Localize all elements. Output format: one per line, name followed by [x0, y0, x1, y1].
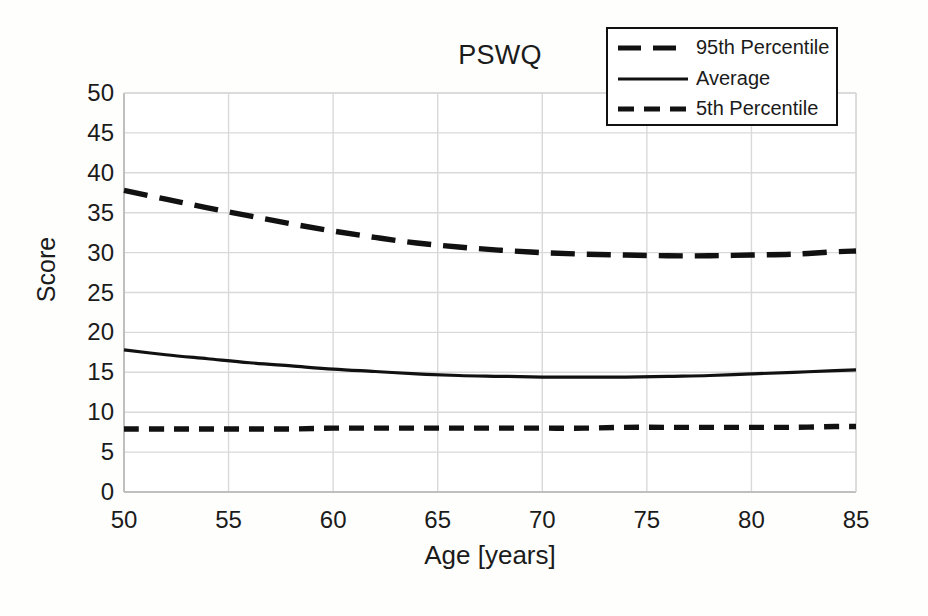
x-tick-label: 85 — [821, 508, 891, 532]
legend-item-95th-percentile[interactable]: 95th Percentile — [608, 32, 840, 63]
x-tick-label: 50 — [89, 508, 159, 532]
legend-swatch-dashed-long-icon — [618, 39, 688, 57]
x-tick-label: 70 — [507, 508, 577, 532]
y-tick-label: 10 — [62, 400, 114, 424]
legend-label: 5th Percentile — [696, 97, 818, 120]
x-tick-label: 65 — [403, 508, 473, 532]
y-tick-label: 35 — [62, 201, 114, 225]
legend-swatch-solid-icon — [618, 70, 688, 88]
x-tick-label: 75 — [612, 508, 682, 532]
y-tick-label: 0 — [62, 480, 114, 504]
legend-swatch-dashed-short-icon — [618, 100, 688, 118]
y-tick-label: 45 — [62, 121, 114, 145]
chart-legend: 95th Percentile Average 5th Percentile — [606, 27, 838, 126]
chart-figure: PSWQ Score Age [years] 05101520253035404… — [0, 0, 928, 616]
y-tick-label: 40 — [62, 161, 114, 185]
y-axis-label: Score — [32, 210, 61, 330]
y-tick-label: 30 — [62, 241, 114, 265]
y-tick-label: 5 — [62, 440, 114, 464]
y-tick-label: 25 — [62, 281, 114, 305]
legend-item-average[interactable]: Average — [608, 63, 840, 94]
y-tick-label: 20 — [62, 320, 114, 344]
x-tick-label: 80 — [716, 508, 786, 532]
legend-item-5th-percentile[interactable]: 5th Percentile — [608, 93, 840, 124]
x-tick-label: 60 — [298, 508, 368, 532]
x-tick-label: 55 — [194, 508, 264, 532]
y-tick-label: 15 — [62, 360, 114, 384]
x-axis-label: Age [years] — [124, 540, 856, 571]
y-tick-label: 50 — [62, 81, 114, 105]
legend-label: 95th Percentile — [696, 36, 829, 59]
legend-label: Average — [696, 67, 770, 90]
